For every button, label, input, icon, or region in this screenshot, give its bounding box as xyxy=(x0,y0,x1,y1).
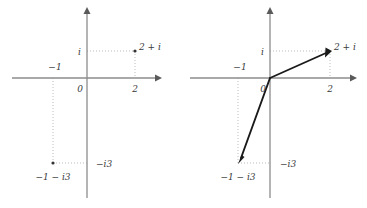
label-point-2-plus-i: 2 + i xyxy=(138,42,161,52)
axes-left xyxy=(12,7,162,198)
origin-label: 0 xyxy=(77,84,83,94)
plot-points-left xyxy=(51,49,136,164)
tick-label-minus-1: −1 xyxy=(48,62,61,72)
vector-to-2-plus-i[interactable] xyxy=(270,53,326,78)
tick-label-i: i xyxy=(78,47,81,57)
tick-label-minus-i3: −i3 xyxy=(280,159,296,169)
real-axis-arrow xyxy=(350,75,357,82)
point-2-plus-i[interactable] xyxy=(133,49,136,52)
label-point-minus1-minus-i3: −1 − i3 xyxy=(220,172,255,182)
tick-label-2: 2 xyxy=(326,84,333,94)
real-axis-arrow xyxy=(155,75,162,82)
tick-label-2: 2 xyxy=(131,84,138,94)
point-minus1-minus-i3[interactable] xyxy=(51,161,54,164)
argand-plot-right: 2 + i −1 − i3 i −i3 2 −1 0 xyxy=(184,0,367,208)
axes-right xyxy=(190,7,357,198)
argand-diagram-figure: 2 + i −1 − i3 i −i3 2 −1 0 xyxy=(0,0,367,208)
tick-label-minus-i3: −i3 xyxy=(96,159,112,169)
label-point-minus1-minus-i3: −1 − i3 xyxy=(35,172,70,182)
tick-label-i: i xyxy=(261,47,264,57)
label-point-2-plus-i: 2 + i xyxy=(333,42,356,52)
tick-label-minus-1: −1 xyxy=(233,62,246,72)
guide-lines-right xyxy=(238,51,330,163)
vectors-right xyxy=(238,48,332,165)
vector-arrow-2-plus-i xyxy=(325,48,332,58)
argand-panel-left: 2 + i −1 − i3 i −i3 2 −1 0 xyxy=(0,0,184,208)
argand-plot-left: 2 + i −1 − i3 i −i3 2 −1 0 xyxy=(0,0,184,208)
guide-lines-left xyxy=(53,51,135,163)
origin-label: 0 xyxy=(260,84,266,94)
imaginary-axis-arrow xyxy=(84,7,91,14)
imaginary-axis-arrow xyxy=(267,7,274,14)
argand-panel-right: 2 + i −1 − i3 i −i3 2 −1 0 xyxy=(184,0,367,208)
